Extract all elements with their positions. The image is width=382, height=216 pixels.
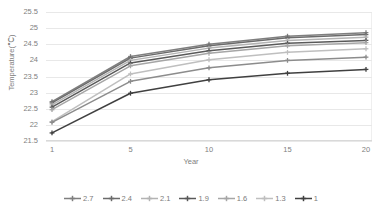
legend-item[interactable]: 1.6	[218, 194, 247, 203]
legend-label: 2.4	[122, 194, 132, 203]
data-point-marker	[207, 65, 212, 70]
legend-item[interactable]: 1.9	[179, 194, 208, 203]
series-layer	[46, 12, 372, 141]
gridline	[46, 141, 372, 142]
legend-marker-icon	[295, 194, 312, 203]
y-axis-tick-label: 25	[30, 24, 38, 32]
y-axis-tick-label: 22	[30, 121, 38, 129]
legend-marker-icon	[179, 194, 196, 203]
data-point-marker	[364, 55, 369, 60]
x-axis-tick-label: 10	[205, 145, 213, 154]
y-axis-tick-label: 22.5	[23, 105, 38, 113]
data-point-marker	[285, 50, 290, 55]
legend-label: 1.6	[237, 194, 247, 203]
data-point-marker	[364, 46, 369, 51]
y-axis-title: Temperature(℃)	[7, 8, 16, 118]
legend-marker-icon	[141, 194, 158, 203]
y-axis-tick-label: 21.5	[23, 137, 38, 145]
legend-label: 1.9	[198, 194, 208, 203]
legend-label: 2.1	[160, 194, 170, 203]
x-axis-tick-label: 1	[50, 145, 54, 154]
legend-label: 1.3	[275, 194, 285, 203]
y-axis-tick-label: 24.5	[23, 40, 38, 48]
x-axis-ticks: 15101520	[46, 143, 372, 157]
legend-item[interactable]: 1.3	[256, 194, 285, 203]
legend-item[interactable]: 1	[295, 194, 318, 203]
data-point-marker	[285, 71, 290, 76]
x-axis-title: Year	[0, 157, 382, 166]
x-axis-tick-label: 15	[283, 145, 291, 154]
legend-item[interactable]: 2.7	[64, 194, 93, 203]
legend-item[interactable]: 2.4	[103, 194, 132, 203]
data-point-marker	[207, 77, 212, 82]
legend-item[interactable]: 2.1	[141, 194, 170, 203]
legend-label: 2.7	[83, 194, 93, 203]
x-axis-tick-label: 20	[362, 145, 370, 154]
data-point-marker	[364, 67, 369, 72]
y-axis-tick-label: 25.5	[23, 8, 38, 16]
y-axis-tick-label: 24	[30, 56, 38, 64]
line-chart: 21.52222.52323.52424.52525.5 15101520 Ye…	[0, 0, 382, 216]
chart-legend: 2.72.42.11.91.61.31	[0, 190, 382, 206]
legend-marker-icon	[256, 194, 273, 203]
data-point-marker	[285, 58, 290, 63]
legend-marker-icon	[218, 194, 235, 203]
legend-marker-icon	[64, 194, 81, 203]
legend-label: 1	[314, 194, 318, 203]
data-point-marker	[207, 57, 212, 62]
legend-marker-icon	[103, 194, 120, 203]
y-axis-tick-label: 23.5	[23, 73, 38, 81]
x-axis-tick-label: 5	[128, 145, 132, 154]
y-axis-tick-label: 23	[30, 89, 38, 97]
